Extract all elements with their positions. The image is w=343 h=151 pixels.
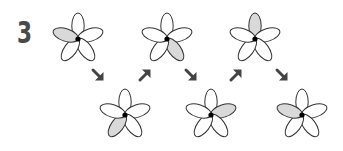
flower-center-dot bbox=[164, 36, 169, 41]
flower-center-dot bbox=[299, 112, 304, 117]
flower-1 bbox=[47, 8, 109, 70]
flower-center-dot bbox=[252, 36, 257, 41]
arrow-down-right-icon bbox=[183, 67, 199, 83]
flower-3 bbox=[136, 8, 198, 70]
arrow-down-right-icon bbox=[274, 67, 290, 83]
flower-center-dot bbox=[122, 112, 127, 117]
flower-center-dot bbox=[208, 112, 213, 117]
flower-icon bbox=[47, 8, 109, 70]
arrow-down-right-icon bbox=[90, 67, 106, 83]
arrow-up-right-icon bbox=[137, 67, 153, 83]
flower-5 bbox=[224, 8, 286, 70]
flower-icon bbox=[271, 84, 333, 146]
problem-number: 3 bbox=[17, 18, 31, 48]
flower-icon bbox=[136, 8, 198, 70]
flower-4 bbox=[180, 84, 242, 146]
flower-icon bbox=[224, 8, 286, 70]
flower-icon bbox=[180, 84, 242, 146]
flower-6 bbox=[271, 84, 333, 146]
flower-icon bbox=[94, 84, 156, 146]
arrow-up-right-icon bbox=[228, 67, 244, 83]
flower-2 bbox=[94, 84, 156, 146]
flower-center-dot bbox=[75, 36, 80, 41]
